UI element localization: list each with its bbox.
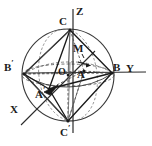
label-point-c-prime: C′ xyxy=(60,123,70,138)
label-point-o: O xyxy=(58,66,66,77)
label-point-a: A xyxy=(77,69,85,80)
label-point-c: C xyxy=(59,16,67,27)
label-axis-y: Y xyxy=(126,63,134,74)
label-point-b-prime: B′ xyxy=(4,58,14,73)
label-axis-z: Z xyxy=(76,6,83,17)
label-point-a-prime: A′ xyxy=(35,85,45,100)
m-tick xyxy=(82,54,84,58)
label-point-b: B xyxy=(113,62,120,73)
label-axis-x: X xyxy=(10,104,18,115)
label-point-m: M xyxy=(73,43,83,54)
